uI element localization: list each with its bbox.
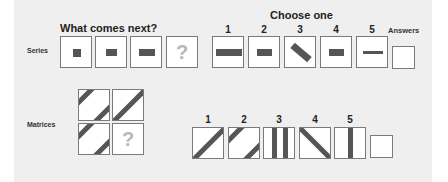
series-choice-number: 2 bbox=[248, 24, 280, 35]
choose-one-heading: Choose one bbox=[270, 9, 333, 21]
series-choice-2[interactable] bbox=[248, 36, 280, 68]
two-verticals-pattern bbox=[264, 128, 295, 159]
back-diagonal-pattern bbox=[300, 128, 331, 159]
matrices-row-label: Matrices bbox=[27, 121, 55, 128]
matrix-answer-box[interactable] bbox=[370, 135, 393, 158]
series-heading: What comes next? bbox=[60, 22, 157, 34]
one-diagonal-pattern bbox=[193, 128, 224, 159]
series-choice-3[interactable] bbox=[284, 36, 316, 68]
rectangle-shape bbox=[257, 49, 272, 56]
matrix-choice-number: 1 bbox=[192, 114, 224, 125]
rectangle-shape bbox=[329, 49, 344, 56]
answers-label: Answers bbox=[388, 26, 419, 35]
one-vertical-pattern bbox=[335, 128, 366, 159]
matrix-choice-number: 2 bbox=[228, 114, 260, 125]
question-mark-icon: ? bbox=[167, 37, 197, 67]
rectangle-shape bbox=[216, 49, 242, 56]
series-item-2 bbox=[95, 36, 127, 68]
series-item-question: ? bbox=[166, 36, 198, 68]
series-row-label: Series bbox=[27, 47, 48, 54]
series-choice-number: 1 bbox=[212, 24, 244, 35]
matrix-choice-number: 5 bbox=[334, 114, 366, 125]
matrix-choice-3[interactable] bbox=[263, 127, 295, 159]
matrix-choice-1[interactable] bbox=[192, 127, 224, 159]
matrix-cell-question: ? bbox=[112, 123, 144, 155]
question-mark-icon: ? bbox=[113, 124, 143, 154]
matrix-choice-2[interactable] bbox=[228, 127, 260, 159]
matrix-choice-4[interactable] bbox=[299, 127, 331, 159]
series-choice-number: 5 bbox=[356, 24, 388, 35]
matrix-choice-5[interactable] bbox=[334, 127, 366, 159]
series-choice-number: 3 bbox=[284, 24, 316, 35]
matrix-choice-number: 3 bbox=[263, 114, 295, 125]
matrix-cell-3 bbox=[78, 123, 110, 155]
matrix-choice-number: 4 bbox=[299, 114, 331, 125]
series-item-1 bbox=[60, 36, 92, 68]
two-diagonals-pattern bbox=[79, 124, 110, 155]
series-choice-number: 4 bbox=[320, 24, 352, 35]
matrix-cell-1 bbox=[78, 89, 110, 121]
series-choice-5[interactable] bbox=[356, 36, 388, 68]
one-diagonal-pattern bbox=[113, 90, 144, 121]
rectangle-shape bbox=[139, 49, 155, 56]
series-item-3 bbox=[130, 36, 162, 68]
two-diagonals-pattern bbox=[79, 90, 110, 121]
rotated-rectangle-shape bbox=[290, 43, 311, 63]
series-answer-box[interactable] bbox=[392, 46, 415, 69]
matrix-cell-2 bbox=[112, 89, 144, 121]
two-diagonals-pattern bbox=[229, 128, 260, 159]
series-choice-4[interactable] bbox=[320, 36, 352, 68]
series-choice-1[interactable] bbox=[212, 36, 244, 68]
square-shape bbox=[73, 49, 81, 57]
rectangle-shape bbox=[106, 49, 117, 56]
line-shape bbox=[363, 51, 383, 54]
